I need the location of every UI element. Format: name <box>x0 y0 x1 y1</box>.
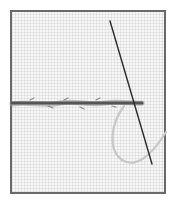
stitch-illustration <box>0 0 176 201</box>
needle-icon <box>110 21 152 164</box>
loose-thread <box>112 106 166 163</box>
